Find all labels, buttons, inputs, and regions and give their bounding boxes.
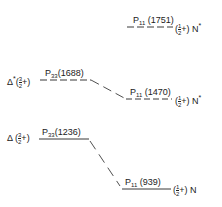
jp-label-n939: (12+) N [173, 184, 197, 197]
state-label-d1236: P33(1236) [42, 127, 81, 140]
connector-d1236-n939 [90, 141, 120, 186]
state-label-n1751: P11 (1751) [133, 15, 174, 28]
jp-label-n1470: (12+) N* [175, 93, 201, 108]
state-label-n939: P11 (939) [125, 177, 161, 190]
excited-star: * [199, 22, 202, 29]
jp-label-n1751: (12+) N* [175, 21, 201, 36]
state-mass: (1751) [148, 15, 174, 25]
connector-d1688-n1470 [91, 80, 126, 99]
state-subscript: 11 [139, 20, 145, 26]
particle-label-d1688: Δ*(32+) [7, 74, 30, 89]
state-label-n1470: P11 (1470) [130, 87, 171, 100]
particle-label-d1236: Δ (32+) [7, 132, 30, 145]
state-label-d1688: P33(1688) [45, 68, 84, 81]
